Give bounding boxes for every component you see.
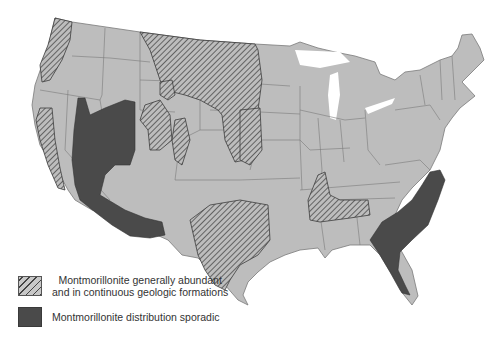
hatched-swatch-icon bbox=[18, 276, 42, 296]
legend-label-abundant: Montmorillonite generally abundant and i… bbox=[52, 274, 228, 298]
legend-label-sporadic: Montmorillonite distribution sporadic bbox=[52, 311, 220, 323]
legend-item-abundant: Montmorillonite generally abundant and i… bbox=[18, 274, 228, 298]
legend-label-line2: and in continuous geologic formations bbox=[52, 286, 228, 298]
legend-label-line1: Montmorillonite generally abundant bbox=[52, 274, 228, 286]
legend-item-sporadic: Montmorillonite distribution sporadic bbox=[18, 307, 220, 327]
legend-label-line1: Montmorillonite distribution sporadic bbox=[52, 311, 220, 323]
dark-swatch-icon bbox=[18, 307, 42, 327]
